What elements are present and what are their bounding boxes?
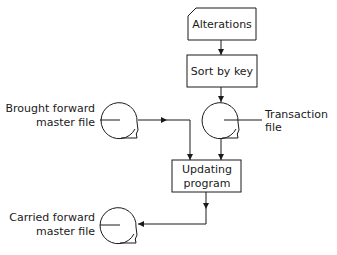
edge-sort-to-transaction <box>218 87 224 102</box>
edge-updating-to-carried-forward <box>138 192 209 227</box>
alterations-node: Alterations <box>188 8 256 40</box>
edge-transaction-to-updating <box>218 138 224 160</box>
carried-forward-node: Carried forward master file <box>9 208 137 244</box>
edge-brought-forward-to-updating <box>138 117 193 160</box>
updating-label-line1: Updating <box>182 163 232 176</box>
edge-alterations-to-sort <box>218 40 224 55</box>
sort-node: Sort by key <box>187 55 257 87</box>
updating-label-line2: program <box>184 177 231 190</box>
flowchart-diagram: Alterations Sort by key Transaction file… <box>0 0 337 255</box>
magnetic-tape-icon <box>202 103 239 139</box>
transaction-label-line1: Transaction <box>264 108 328 121</box>
brought-forward-node: Brought forward master file <box>6 102 138 139</box>
alterations-label: Alterations <box>192 18 252 31</box>
transaction-file-node: Transaction file <box>202 103 328 139</box>
brought-forward-label-line1: Brought forward <box>6 102 95 115</box>
carried-forward-label-line2: master file <box>36 225 95 238</box>
sort-label: Sort by key <box>191 65 254 78</box>
updating-node: Updating program <box>172 160 241 192</box>
brought-forward-label-line2: master file <box>36 116 95 129</box>
magnetic-tape-icon <box>101 103 138 139</box>
transaction-label-line2: file <box>265 121 282 134</box>
carried-forward-label-line1: Carried forward <box>9 211 95 224</box>
magnetic-tape-icon <box>100 208 137 244</box>
